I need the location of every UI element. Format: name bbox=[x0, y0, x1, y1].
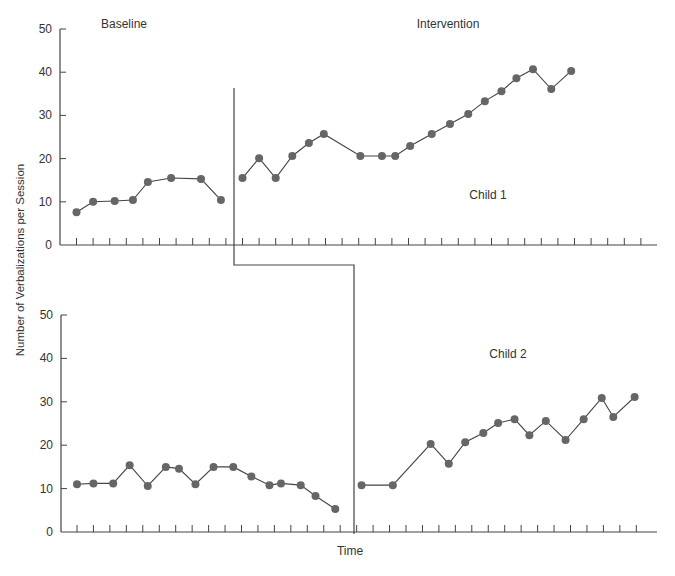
series-line-intervention bbox=[362, 397, 635, 485]
data-point bbox=[297, 481, 305, 489]
y-tick-label: 40 bbox=[40, 351, 54, 365]
data-point bbox=[247, 472, 255, 480]
data-point bbox=[427, 440, 435, 448]
data-point bbox=[406, 142, 414, 150]
data-point bbox=[481, 97, 489, 105]
baseline-label: Baseline bbox=[101, 17, 147, 31]
chart-panel-child-2: 01020304050 bbox=[40, 308, 657, 539]
data-point bbox=[428, 130, 436, 138]
data-point bbox=[217, 196, 225, 204]
data-point bbox=[144, 178, 152, 186]
data-point bbox=[162, 463, 170, 471]
data-point bbox=[479, 429, 487, 437]
data-point bbox=[312, 492, 320, 500]
data-point bbox=[320, 130, 328, 138]
y-tick-label: 0 bbox=[46, 525, 53, 539]
data-point bbox=[331, 505, 339, 513]
data-point bbox=[89, 198, 97, 206]
data-point bbox=[512, 74, 520, 82]
data-point bbox=[129, 196, 137, 204]
data-point bbox=[445, 460, 453, 468]
data-point bbox=[229, 463, 237, 471]
data-point bbox=[542, 417, 550, 425]
data-point bbox=[239, 174, 247, 182]
data-point bbox=[111, 197, 119, 205]
y-tick-label: 50 bbox=[39, 22, 53, 36]
data-point bbox=[525, 431, 533, 439]
data-point bbox=[497, 87, 505, 95]
series-line-intervention bbox=[243, 69, 572, 178]
y-tick-label: 40 bbox=[39, 65, 53, 79]
data-point bbox=[358, 481, 366, 489]
child-1-label: Child 1 bbox=[469, 188, 507, 202]
data-point bbox=[598, 394, 606, 402]
data-point bbox=[446, 120, 454, 128]
data-point bbox=[305, 139, 313, 147]
data-point bbox=[191, 480, 199, 488]
data-point bbox=[167, 174, 175, 182]
y-tick-label: 20 bbox=[40, 438, 54, 452]
figure-labels: Baseline Intervention Child 1 Child 2 Ti… bbox=[14, 17, 527, 558]
data-point bbox=[464, 110, 472, 118]
data-point bbox=[609, 413, 617, 421]
y-tick-label: 0 bbox=[45, 238, 52, 252]
data-point bbox=[265, 481, 273, 489]
data-point bbox=[175, 465, 183, 473]
intervention-label: Intervention bbox=[417, 17, 480, 31]
y-tick-label: 30 bbox=[40, 395, 54, 409]
data-point bbox=[494, 419, 502, 427]
data-point bbox=[461, 438, 469, 446]
y-tick-label: 20 bbox=[39, 152, 53, 166]
data-point bbox=[547, 85, 555, 93]
data-point bbox=[197, 175, 205, 183]
multiple-baseline-figure: 01020304050 01020304050 Baseline Interve… bbox=[0, 0, 675, 576]
series-line-baseline bbox=[77, 465, 335, 509]
data-point bbox=[631, 393, 639, 401]
data-point bbox=[126, 461, 134, 469]
data-point bbox=[529, 65, 537, 73]
data-point bbox=[580, 415, 588, 423]
data-point bbox=[144, 482, 152, 490]
data-point bbox=[109, 479, 117, 487]
data-point bbox=[567, 67, 575, 75]
data-point bbox=[255, 154, 263, 162]
data-point bbox=[89, 479, 97, 487]
data-point bbox=[73, 480, 81, 488]
data-point bbox=[391, 152, 399, 160]
y-axis-label: Number of Verbalizations per Session bbox=[14, 164, 26, 356]
data-point bbox=[389, 481, 397, 489]
data-point bbox=[511, 415, 519, 423]
chart-panel-child-1: 01020304050 bbox=[39, 22, 657, 252]
y-tick-label: 10 bbox=[39, 195, 53, 209]
data-point bbox=[73, 208, 81, 216]
data-point bbox=[288, 152, 296, 160]
data-point bbox=[562, 436, 570, 444]
y-tick-label: 50 bbox=[40, 308, 54, 322]
data-point bbox=[210, 463, 218, 471]
x-axis-label: Time bbox=[337, 544, 364, 558]
y-tick-label: 30 bbox=[39, 108, 53, 122]
child-2-label: Child 2 bbox=[489, 347, 527, 361]
y-tick-label: 10 bbox=[40, 482, 54, 496]
data-point bbox=[356, 152, 364, 160]
data-point bbox=[272, 174, 280, 182]
data-point bbox=[277, 479, 285, 487]
data-point bbox=[378, 152, 386, 160]
